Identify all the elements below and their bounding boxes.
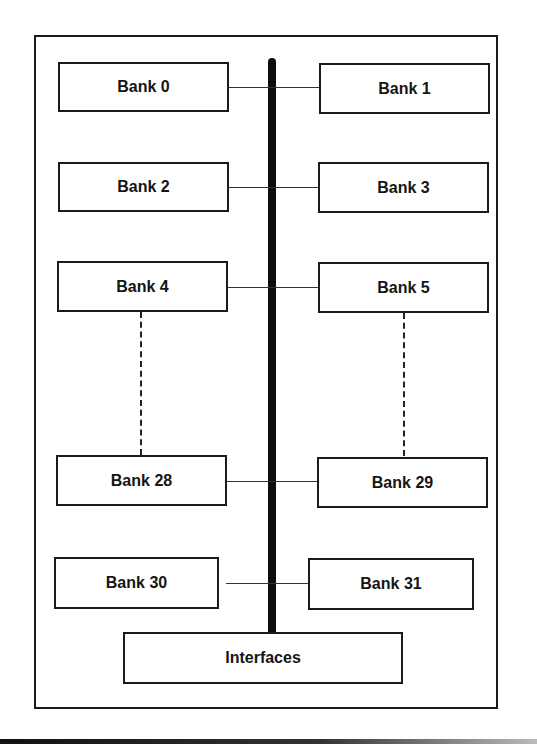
- bank-label: Bank 0: [117, 78, 169, 96]
- bank-label: Bank 3: [377, 179, 429, 197]
- bank-box: Bank 31: [308, 558, 474, 610]
- bank-label: Bank 1: [378, 80, 430, 98]
- bank-label: Bank 31: [360, 575, 421, 593]
- connector-row-1: [228, 187, 320, 188]
- connector-row-0: [228, 87, 320, 88]
- bank-label: Bank 5: [377, 279, 429, 297]
- ellipsis-dashed-line-right: [403, 313, 405, 456]
- bank-box: Bank 0: [58, 62, 229, 112]
- bank-label: Bank 29: [372, 474, 433, 492]
- bank-label: Bank 28: [111, 472, 172, 490]
- bank-box: Bank 1: [319, 63, 490, 114]
- connector-row-3: [226, 481, 320, 482]
- bank-label: Bank 30: [106, 574, 167, 592]
- ellipsis-dashed-line-left: [140, 312, 142, 455]
- bank-label: Bank 4: [116, 278, 168, 296]
- bank-box: Bank 28: [56, 455, 227, 506]
- connector-row-4: [226, 583, 320, 584]
- interfaces-box: Interfaces: [123, 632, 403, 684]
- bank-box: Bank 4: [57, 261, 228, 312]
- bank-box: Bank 30: [54, 557, 219, 609]
- bank-box: Bank 5: [318, 262, 489, 313]
- bank-box: Bank 2: [58, 162, 229, 212]
- bank-box: Bank 3: [318, 162, 489, 213]
- central-bus: [268, 58, 276, 636]
- interfaces-label: Interfaces: [225, 649, 301, 667]
- bank-box: Bank 29: [317, 457, 488, 508]
- bank-label: Bank 2: [117, 178, 169, 196]
- page-edge-bar: [0, 739, 537, 744]
- connector-row-2: [228, 287, 320, 288]
